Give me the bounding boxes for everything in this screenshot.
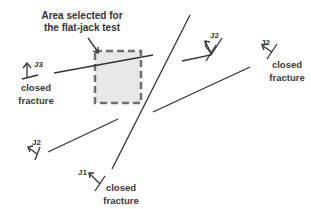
note-right-line-2: fracture	[265, 71, 309, 84]
fracture-diagram: Area selected for the flat-jack test J3 …	[0, 0, 311, 209]
note-bottom-line-2: fracture	[99, 194, 143, 207]
note-bottom-line-1: closed	[99, 181, 143, 194]
caption-line-2: the flat-jack test	[32, 22, 132, 34]
j2-bottom-left-label: J2	[32, 138, 41, 147]
closed-fracture-note-right: closed fracture	[265, 58, 309, 84]
j2-top-label: J2	[210, 31, 219, 40]
j2-orientation-symbol-bottom-left	[28, 146, 40, 160]
note-left-line-1: closed	[14, 81, 58, 94]
j2-right-label: J2	[261, 38, 270, 47]
closed-fracture-note-left: closed fracture	[14, 81, 58, 107]
j3-label: J3	[34, 60, 43, 69]
flat-jack-area-caption: Area selected for the flat-jack test	[32, 10, 132, 34]
caption-line-1: Area selected for	[32, 10, 132, 22]
caption-arrow	[88, 38, 98, 53]
j2-fracture-line-right	[153, 67, 250, 112]
j2-fracture-line-top	[182, 38, 222, 61]
closed-fracture-note-bottom: closed fracture	[99, 181, 143, 207]
j2-fracture-line-lower	[48, 119, 118, 152]
j1-label: J1	[78, 168, 87, 177]
note-left-line-2: fracture	[14, 94, 58, 107]
note-right-line-1: closed	[265, 58, 309, 71]
